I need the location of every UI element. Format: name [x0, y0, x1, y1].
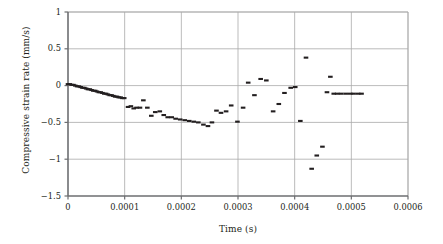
x-tick-label: 0.0004 — [267, 202, 323, 212]
y-tick-label: 0.5 — [27, 43, 61, 53]
x-tick-label: 0.0001 — [97, 202, 153, 212]
x-axis-title: Time (s) — [68, 224, 408, 234]
y-tick-label: 0 — [27, 80, 61, 90]
y-tick-label: 1 — [27, 7, 61, 17]
y-tick-label: −0.5 — [27, 117, 61, 127]
chart-container: 10.50−0.5−1−1.5 00.00010.00020.00030.000… — [0, 0, 443, 244]
data-series-markers — [66, 58, 364, 169]
x-tick-label: 0.0005 — [323, 202, 379, 212]
x-tick-label: 0.0006 — [380, 202, 436, 212]
y-tick-label: −1 — [27, 154, 61, 164]
x-tick-label: 0.0002 — [153, 202, 209, 212]
x-tick-label: 0 — [40, 202, 96, 212]
x-tick-label: 0.0003 — [210, 202, 266, 212]
grid-lines — [68, 12, 408, 196]
y-tick-label: −1.5 — [27, 191, 61, 201]
y-axis-title: Compressive strain rate (mm/s) — [21, 10, 31, 190]
axis-ticks — [65, 12, 409, 200]
